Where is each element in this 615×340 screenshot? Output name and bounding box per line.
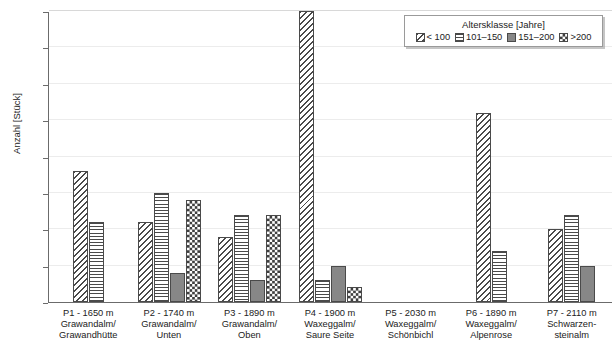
legend-swatch-icon <box>507 33 516 42</box>
bar <box>331 266 346 302</box>
x-axis-category-label-line: Waxeggalm/ <box>370 319 451 330</box>
bar-group <box>49 12 130 302</box>
legend-item[interactable]: 101–150 <box>455 32 502 42</box>
bar-group <box>130 12 211 302</box>
bar <box>266 215 281 302</box>
legend-label: 151–200 <box>518 32 554 42</box>
x-axis-category-label-line: Waxeggalm/ <box>290 319 371 330</box>
bar <box>564 215 579 302</box>
x-axis-category-label-line: Oben <box>209 330 290 340</box>
bar <box>347 287 362 302</box>
x-axis-category-label-line: Schwarzen- <box>531 319 612 330</box>
x-axis-category-label: P1 - 1650 mGrawandalm/Grawandhütte <box>48 308 129 340</box>
x-axis-category-label-line: P3 - 1890 m <box>209 308 290 319</box>
x-axis-category-label-line: Grawandalm/ <box>209 319 290 330</box>
x-axis-category-label: P5 - 2030 mWaxeggalm/Schönbichl <box>370 308 451 340</box>
plot-area <box>48 12 612 303</box>
bar <box>299 11 314 302</box>
bar-group <box>210 12 291 302</box>
bar <box>186 200 201 302</box>
x-axis-category-label-line: P2 - 1740 m <box>129 308 210 319</box>
x-axis-category-label: P6 - 1890 mWaxeggalm/Alpenrose <box>451 308 532 340</box>
bar-group <box>291 12 372 302</box>
bar <box>548 229 563 302</box>
x-axis-category-label-line: Alpenrose <box>451 330 532 340</box>
bar <box>89 222 104 302</box>
bar <box>170 273 185 302</box>
bar <box>580 266 595 302</box>
legend-swatch-icon <box>455 33 464 42</box>
legend-items: < 100101–150151–200>200 <box>409 32 598 42</box>
legend-item[interactable]: >200 <box>559 32 591 42</box>
legend-label: < 100 <box>427 32 451 42</box>
gridline <box>49 10 612 11</box>
x-axis-category-label-line: steinalm <box>531 330 612 340</box>
bar <box>492 251 507 302</box>
x-axis-category-label-line: Schönbichl <box>370 330 451 340</box>
x-axis-category-label-line: Waxeggalm/ <box>451 319 532 330</box>
bar <box>315 280 330 302</box>
legend: Altersklasse [Jahre] < 100101–150151–200… <box>404 15 603 47</box>
bar <box>234 215 249 302</box>
x-axis-category-label: P2 - 1740 mGrawandalm/Unten <box>129 308 210 340</box>
legend-swatch-icon <box>559 33 568 42</box>
x-axis-category-label-line: P6 - 1890 m <box>451 308 532 319</box>
x-axis-category-label-line: Grawandalm/ <box>48 319 129 330</box>
legend-label: >200 <box>570 32 591 42</box>
x-axis-category-label-line: Saure Seite <box>290 330 371 340</box>
bar-group <box>452 12 533 302</box>
legend-item[interactable]: 151–200 <box>507 32 554 42</box>
bar <box>218 237 233 302</box>
x-axis-category-label-line: P4 - 1900 m <box>290 308 371 319</box>
x-axis-category-label-line: P5 - 2030 m <box>370 308 451 319</box>
x-axis-category-label-line: P7 - 2110 m <box>531 308 612 319</box>
bar <box>138 222 153 302</box>
bar <box>250 280 265 302</box>
x-axis-category-label: P7 - 2110 mSchwarzen-steinalm <box>531 308 612 340</box>
bar <box>476 113 491 302</box>
x-axis-category-label: P3 - 1890 mGrawandalm/Oben <box>209 308 290 340</box>
y-axis-tick-mark <box>43 303 48 304</box>
bar-group <box>371 12 452 302</box>
x-axis-category-label-line: Grawandhütte <box>48 330 129 340</box>
y-axis-title: Anzahl [Stück] <box>11 64 22 184</box>
legend-swatch-icon <box>416 33 425 42</box>
x-axis-category-label-line: Unten <box>129 330 210 340</box>
x-axis-category-label-line: Grawandalm/ <box>129 319 210 330</box>
legend-label: 101–150 <box>466 32 502 42</box>
x-axis-category-label-line: P1 - 1650 m <box>48 308 129 319</box>
legend-title: Altersklasse [Jahre] <box>409 19 598 30</box>
bar-group <box>532 12 613 302</box>
bar <box>73 171 88 302</box>
x-axis-category-label: P4 - 1900 mWaxeggalm/Saure Seite <box>290 308 371 340</box>
bar-chart: Anzahl [Stück] 0510152025303540 P1 - 165… <box>0 0 615 340</box>
bar <box>154 193 169 302</box>
legend-item[interactable]: < 100 <box>416 32 451 42</box>
